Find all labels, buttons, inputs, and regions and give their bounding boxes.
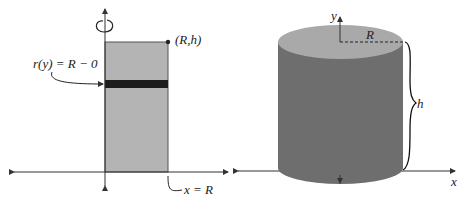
x-axis-label: x — [450, 174, 457, 189]
radius-label-right: R — [365, 27, 374, 42]
cylinder-side — [278, 42, 403, 184]
right-panel: y R h x — [238, 8, 457, 189]
curly-brace-icon — [403, 42, 416, 170]
x-pointer — [168, 176, 182, 191]
radius-label: r(y) = R − 0 — [33, 56, 98, 71]
x-equals-r-label: x = R — [183, 182, 213, 197]
corner-point — [166, 40, 170, 44]
y-axis-label: y — [329, 8, 337, 23]
left-panel: (R,h) r(y) = R − 0 x = R — [14, 9, 228, 197]
shaded-region — [105, 42, 168, 172]
height-label: h — [417, 96, 424, 111]
strip — [105, 80, 168, 88]
point-label: (R,h) — [175, 32, 201, 47]
radius-pointer — [52, 72, 103, 84]
diagram-canvas: (R,h) r(y) = R − 0 x = R y R h x — [0, 0, 465, 210]
